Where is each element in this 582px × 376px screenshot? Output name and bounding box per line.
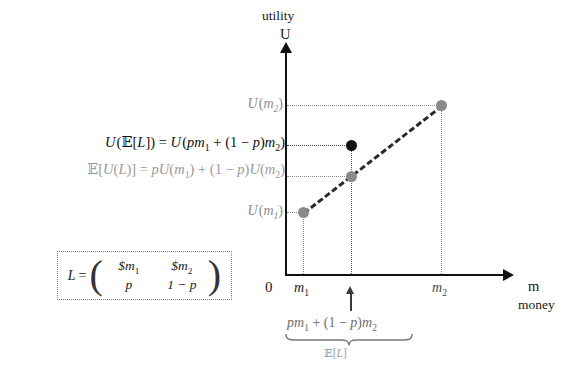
x-axis-caption: money: [518, 297, 555, 313]
y-label-u-m1-fn: U: [247, 203, 257, 218]
guide-line-u-m2: [287, 105, 441, 106]
lottery-outcomes-row: $m1 $m2: [111, 258, 200, 276]
y-label-utility-of-expected-value: U (𝔼[L]) = U (pm1 + (1 − p)m2): [105, 134, 285, 153]
lottery-matrix: $m1 $m2 p 1 − p: [106, 258, 205, 293]
lottery-probability-2: 1 − p: [164, 277, 200, 293]
lottery-probability-1: p: [111, 277, 147, 293]
x-tick-m1: m1: [294, 280, 309, 298]
under-brace-icon: [285, 333, 413, 346]
x-axis-symbol: m: [528, 278, 539, 295]
y-label-u-m1: U (m1): [247, 203, 283, 221]
left-paren-icon: (: [90, 261, 103, 290]
x-axis-line: [285, 274, 507, 276]
y-axis-line: [285, 50, 287, 276]
guide-line-expected-utility: [287, 176, 351, 177]
guide-line-m2-vertical: [441, 105, 442, 274]
y-label-u-m2-fn: U: [247, 96, 257, 111]
chord-dashed-line: [303, 105, 443, 215]
y-label-expected-utility: 𝔼[U(L)] = pU(m1) + (1 − p)U(m2): [87, 161, 285, 180]
lottery-name: L: [68, 268, 76, 284]
y-label-u-m2-arg: m: [263, 96, 273, 111]
y-label-eul-text: 𝔼[U(L)] = pU(m1) + (1 − p)U(m2): [87, 161, 285, 177]
x-axis-arrow-icon: [503, 269, 514, 281]
expected-value-expression: pm1 + (1 − p)m2: [287, 315, 377, 333]
lottery-outcome-1: $m1: [111, 258, 147, 276]
data-point-m2: [436, 100, 447, 111]
y-label-u-m1-arg: m: [263, 203, 273, 218]
lottery-equals: =: [79, 268, 87, 284]
y-axis-arrow-icon: [280, 42, 292, 53]
x-tick-origin: 0: [265, 279, 273, 296]
x-tick-m2: m2: [432, 280, 447, 298]
data-point-m1: [298, 207, 309, 218]
y-label-u-m2: U (m2): [247, 96, 283, 114]
guide-line-expected-value-vertical: [351, 145, 352, 274]
lottery-definition-box: L = ( $m1 $m2 p 1 − p ): [57, 251, 232, 300]
lottery-expression: L = ( $m1 $m2 p 1 − p ): [68, 258, 221, 293]
x-tick-m2-sub: 2: [442, 288, 447, 298]
figure-canvas: utility U m money U (m2) U (m1) U (𝔼[L])…: [0, 0, 582, 376]
expected-value-arrow-shaft: [350, 292, 352, 311]
y-axis-symbol: U: [280, 26, 290, 43]
x-tick-m2-base: m: [432, 280, 442, 295]
lottery-probabilities-row: p 1 − p: [111, 277, 200, 293]
lottery-outcome-2: $m2: [164, 258, 200, 276]
guide-line-m1-vertical: [303, 212, 304, 274]
under-brace-label: 𝔼[L]: [324, 346, 347, 360]
guide-line-u-of-expected-value: [287, 145, 351, 146]
x-tick-m1-sub: 1: [304, 288, 309, 298]
data-point-utility-of-expected-value: [346, 140, 357, 151]
y-axis-caption: utility: [262, 8, 294, 24]
y-label-uel-lhs: U (𝔼[L]) = U (pm1 + (1 − p)m2): [105, 134, 285, 150]
data-point-expected-utility: [346, 171, 357, 182]
x-tick-m1-base: m: [294, 280, 304, 295]
right-paren-icon: ): [208, 261, 221, 290]
